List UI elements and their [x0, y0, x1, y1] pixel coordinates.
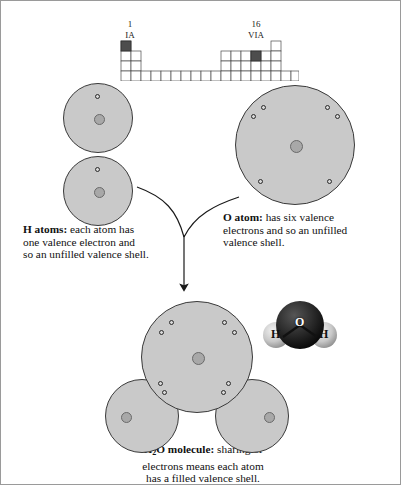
caption-oxygen-line3: valence shell.: [223, 236, 284, 248]
oxygen-valence-electron: [258, 179, 263, 184]
oxygen-valence-electron: [327, 179, 332, 184]
hydrogen-atom-2-shell: [63, 156, 133, 226]
oxygen-valence-electron: [325, 105, 330, 110]
hydrogen-atom-2-nucleus: [94, 187, 105, 198]
periodic-table: 1 IA 16 VIA: [119, 19, 299, 81]
space-fill-hydrogen-right-label: H: [319, 327, 328, 342]
oxygen-atom-shell: [235, 85, 355, 205]
molecule-oxygen-nucleus: [192, 352, 205, 365]
space-fill-hydrogen-left-label: H: [271, 327, 280, 342]
molecule-oxygen-lone-electron: [222, 320, 227, 325]
caption-oxygen-bold: O atom:: [223, 211, 263, 223]
hydrogen-atom-1-electron: [95, 94, 100, 99]
hydrogen-atom-2-electron: [95, 167, 100, 172]
caption-oxygen-line2: electrons and so an unfilled: [223, 224, 347, 236]
space-filling-model: O H H: [263, 295, 337, 357]
caption-h2o-molecule: H2O molecule: sharing of electrons means…: [79, 443, 327, 485]
oxygen-valence-electron: [251, 114, 256, 119]
molecule-oxygen-lone-electron: [159, 330, 164, 335]
space-fill-oxygen-label: O: [295, 315, 304, 330]
shared-electron: [158, 381, 163, 386]
caption-h2o-line3: has a filled valence shell.: [146, 472, 260, 484]
shared-pair-left: [151, 381, 177, 407]
hydrogen-atom-1-nucleus: [94, 114, 105, 125]
molecule-oxygen-lone-electron: [232, 330, 237, 335]
molecule-oxygen-lone-electron: [169, 320, 174, 325]
molecule-hydrogen-right-nucleus: [264, 412, 275, 423]
shared-pair-right: [217, 381, 243, 407]
shared-electron: [226, 381, 231, 386]
oxygen-valence-electron: [335, 114, 340, 119]
caption-hydrogen-line2: one valence electron and: [23, 236, 135, 248]
caption-h2o-line2: electrons means each atom: [142, 460, 263, 472]
caption-hydrogen-atoms: H atoms: each atom has one valence elect…: [23, 223, 195, 261]
caption-hydrogen-line3: so an unfilled valence shell.: [23, 248, 149, 260]
figure-panel: 1 IA 16 VIA: [0, 0, 401, 485]
shared-electron: [162, 390, 167, 395]
caption-hydrogen-line1: each atom has: [67, 223, 134, 235]
oxygen-valence-electron: [261, 105, 266, 110]
periodic-table-grid: [119, 19, 299, 81]
caption-oxygen-atom: O atom: has six valence electrons and so…: [223, 211, 393, 249]
caption-oxygen-line1: has six valence: [263, 211, 334, 223]
caption-hydrogen-bold: H atoms:: [23, 223, 67, 235]
shared-electron: [221, 390, 226, 395]
hydrogen-atom-1-shell: [63, 83, 133, 153]
oxygen-atom-nucleus: [290, 140, 303, 153]
molecule-hydrogen-left-nucleus: [121, 412, 132, 423]
